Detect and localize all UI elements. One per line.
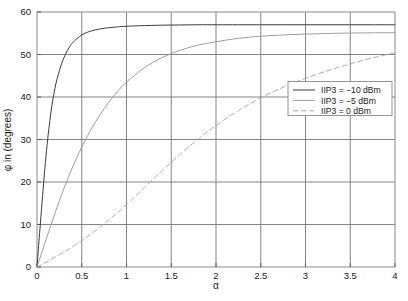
x-tick-label: 2.5 [254,270,267,281]
x-tick-label: 0 [34,270,39,281]
x-tick-label: 1 [124,270,129,281]
y-tick-label: 40 [20,91,31,102]
y-tick-label: 20 [20,176,31,187]
x-tick-label: 0.5 [75,270,88,281]
x-axis-label: α [213,280,219,291]
y-tick-label: 0 [26,261,31,272]
legend-label: IIP3 = −10 dBm [321,85,381,95]
x-tick-label: 3.5 [344,270,357,281]
y-tick-label: 60 [20,6,31,17]
y-tick-label: 10 [20,219,31,230]
legend-label: IIP3 = 0 dBm [321,106,371,116]
x-tick-label: 3 [303,270,308,281]
x-tick-label: 4 [392,270,397,281]
line-chart-figure: 00.511.522.533.54 0102030405060 α φ in (… [0,0,408,301]
legend: IIP3 = −10 dBmIIP3 = −5 dBmIIP3 = 0 dBm [288,82,392,117]
x-tick-label: 1.5 [165,270,178,281]
legend-label: IIP3 = −5 dBm [321,96,376,106]
y-tick-label: 50 [20,49,31,60]
y-axis-label: φ in (degrees) [2,109,13,172]
y-tick-label: 30 [20,134,31,145]
